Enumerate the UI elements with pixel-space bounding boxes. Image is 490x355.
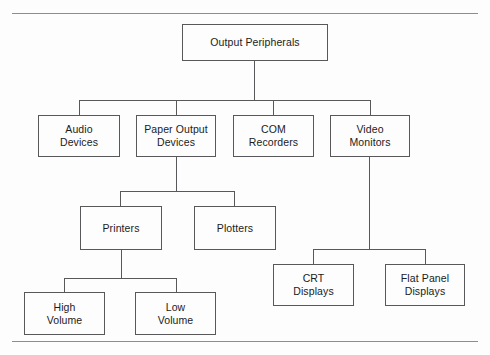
connector-drop-com-recorders [273,100,274,115]
connector-paper-output-bus [120,191,235,192]
connector-printers-stem [121,250,122,278]
node-label: COMRecorders [246,123,301,149]
connector-level1-bus [79,100,371,101]
node-label: Plotters [214,222,256,235]
node-label: LowVolume [155,301,197,327]
connector-paper-output-stem [176,157,177,191]
node-label: Paper OutputDevices [141,123,211,149]
node-label: Printers [100,222,143,235]
connector-drop-low-volume [176,278,177,292]
connector-video-monitors-stem [369,157,370,249]
connector-drop-crt-displays [313,249,314,264]
node-label: AudioDevices [57,123,101,149]
node-label: Output Peripherals [207,36,302,49]
node-label: Flat PanelDisplays [398,272,452,298]
node-label: CRTDisplays [290,272,336,298]
node-low-volume[interactable]: LowVolume [135,292,216,335]
connector-drop-printers [120,191,121,206]
connector-drop-plotters [234,191,235,206]
node-plotters[interactable]: Plotters [194,206,276,250]
node-label: HighVolume [44,301,86,327]
node-paper-output-devices[interactable]: Paper OutputDevices [136,115,216,157]
node-crt-displays[interactable]: CRTDisplays [273,264,354,306]
connector-drop-high-volume [64,278,65,292]
connector-drop-paper-output-devices [176,100,177,115]
diagram-canvas: Output Peripherals AudioDevices Paper Ou… [0,0,490,355]
top-horizontal-rule [12,13,478,14]
connector-drop-video-monitors [370,100,371,115]
node-video-monitors[interactable]: VideoMonitors [330,115,410,157]
connector-drop-flat-panel-displays [425,249,426,264]
node-printers[interactable]: Printers [80,206,162,250]
bottom-horizontal-rule [12,341,478,342]
connector-root-stem [254,61,255,100]
node-high-volume[interactable]: HighVolume [24,292,105,335]
connector-drop-audio-devices [79,100,80,115]
connector-video-monitors-bus [313,249,425,250]
node-flat-panel-displays[interactable]: Flat PanelDisplays [385,264,465,306]
connector-printers-bus [64,278,176,279]
node-label: VideoMonitors [346,123,393,149]
node-output-peripherals[interactable]: Output Peripherals [182,24,328,61]
node-com-recorders[interactable]: COMRecorders [233,115,314,157]
node-audio-devices[interactable]: AudioDevices [38,115,120,157]
